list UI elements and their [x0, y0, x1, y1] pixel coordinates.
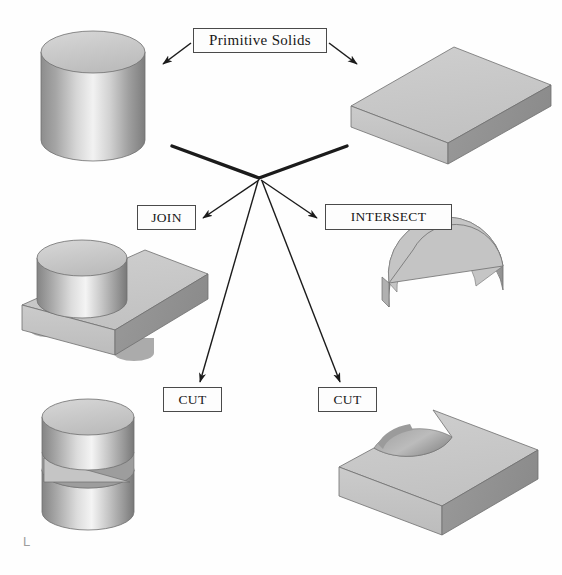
shape-block-primitive — [351, 47, 551, 164]
label-cut-left[interactable]: CUT — [163, 387, 222, 412]
shape-intersect-result — [382, 217, 503, 307]
arrow-primitive-to-cylinder — [163, 43, 191, 64]
shape-cut-cylinder-result — [42, 399, 134, 530]
solid-modeling-diagram-canvas — [0, 0, 562, 575]
arrow-hub-to-join — [203, 180, 259, 218]
label-intersect[interactable]: INTERSECT — [325, 204, 452, 230]
label-join[interactable]: JOIN — [137, 205, 196, 230]
label-cut-right[interactable]: CUT — [318, 387, 377, 412]
arrow-primitive-to-block — [329, 43, 357, 64]
feed-line-from-block — [259, 146, 347, 178]
arrow-hub-to-cut-left — [200, 181, 258, 382]
label-primitive-solids[interactable]: Primitive Solids — [193, 28, 327, 53]
diagram-page: Primitive Solids JOIN INTERSECT CUT CUT … — [0, 0, 562, 575]
shape-cylinder-primitive — [41, 31, 145, 161]
join-cylinder-top-face — [37, 240, 127, 276]
shape-join-result — [22, 240, 208, 361]
intersect-left-end-face — [382, 277, 389, 307]
corner-mark-l: L — [23, 534, 30, 549]
cut-cylinder-upper-top-face — [42, 399, 134, 435]
feed-line-from-cylinder — [172, 146, 259, 178]
shape-cut-block-result — [339, 410, 538, 535]
cylinder-top-face — [41, 31, 145, 73]
